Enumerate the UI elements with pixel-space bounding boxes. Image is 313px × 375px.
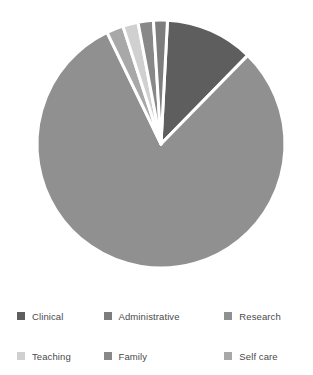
- legend-swatch-icon: [104, 352, 112, 360]
- legend-swatch-icon: [224, 352, 232, 360]
- legend-item-label: Research: [239, 311, 280, 322]
- legend-item-administrative[interactable]: Administrative: [102, 311, 212, 322]
- legend-item-self-care[interactable]: Self care: [211, 351, 305, 362]
- legend-item-clinical[interactable]: Clinical: [8, 311, 102, 322]
- pie-slice-group: [37, 20, 285, 268]
- legend-swatch-icon: [17, 352, 25, 360]
- legend-row: Teaching Family Self care: [8, 343, 305, 369]
- legend-swatch-icon: [104, 312, 112, 320]
- legend-item-research[interactable]: Research: [211, 311, 305, 322]
- legend-row: Clinical Administrative Research: [8, 303, 305, 329]
- legend-item-label: Family: [119, 351, 148, 362]
- legend-swatch-icon: [17, 312, 25, 320]
- legend-item-label: Teaching: [32, 351, 71, 362]
- chart-legend: Clinical Administrative Research Teachin…: [0, 300, 313, 370]
- legend-item-label: Clinical: [32, 311, 63, 322]
- pie-plot-area: [0, 0, 313, 295]
- pie-chart-figure: Clinical Administrative Research Teachin…: [0, 0, 313, 375]
- pie-svg: [0, 0, 313, 295]
- legend-item-family[interactable]: Family: [102, 351, 212, 362]
- legend-item-label: Self care: [239, 351, 277, 362]
- legend-swatch-icon: [224, 312, 232, 320]
- legend-item-label: Administrative: [119, 311, 180, 322]
- legend-item-teaching[interactable]: Teaching: [8, 351, 102, 362]
